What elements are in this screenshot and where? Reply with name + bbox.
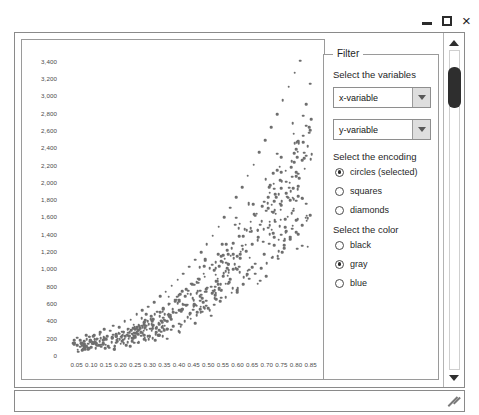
scatter-point xyxy=(209,309,212,312)
scatter-point xyxy=(80,342,83,345)
scatter-point xyxy=(136,326,139,329)
scatter-point xyxy=(179,331,182,334)
scatter-point xyxy=(264,139,267,142)
scatter-point xyxy=(259,280,262,283)
scatter-point xyxy=(143,336,146,339)
radio-unselected-icon xyxy=(335,241,344,250)
scatter-point xyxy=(123,342,126,345)
vertical-scrollbar[interactable] xyxy=(443,33,464,387)
scatter-point xyxy=(111,336,114,339)
x-variable-select[interactable]: x-variable xyxy=(333,87,431,108)
select-variables-label: Select the variables xyxy=(333,69,430,80)
x-tick-label: 0.80 xyxy=(290,361,302,368)
scatter-point xyxy=(199,289,202,292)
scroll-down-button[interactable] xyxy=(444,370,464,385)
scatter-point xyxy=(184,320,187,323)
maximize-button[interactable] xyxy=(440,14,453,27)
chevron-down-icon[interactable] xyxy=(412,120,430,139)
radio-encoding-squares-label: squares xyxy=(350,186,382,196)
scatter-point xyxy=(278,238,281,241)
scatter-point xyxy=(130,329,133,332)
chevron-down-icon[interactable] xyxy=(412,88,430,107)
scatter-point xyxy=(257,229,260,232)
scatter-point xyxy=(291,227,294,230)
x-variable-value: x-variable xyxy=(334,93,378,103)
scatter-point xyxy=(273,244,276,247)
scatter-point xyxy=(267,226,270,229)
scatter-point xyxy=(244,243,247,246)
scatter-point xyxy=(242,283,245,286)
y-tick-label: 1,200 xyxy=(41,248,57,255)
scatter-point xyxy=(218,265,221,268)
scatter-point xyxy=(234,223,237,226)
scatter-point xyxy=(285,192,288,195)
triangle-up-icon xyxy=(449,40,459,46)
scatter-point xyxy=(198,278,201,281)
scatter-point xyxy=(167,295,170,298)
scatter-point xyxy=(94,347,97,350)
scatter-point xyxy=(302,114,305,117)
minimize-button[interactable] xyxy=(420,14,433,27)
scatter-point xyxy=(296,247,299,250)
y-variable-select[interactable]: y-variable xyxy=(333,119,431,140)
scatter-point xyxy=(256,282,259,285)
scatter-point xyxy=(85,334,88,337)
close-button[interactable]: × xyxy=(460,14,473,27)
scatter-point xyxy=(213,269,216,272)
scatter-point xyxy=(189,293,192,296)
scatter-point xyxy=(227,283,230,286)
scatter-point xyxy=(210,285,213,288)
scatter-point xyxy=(133,332,136,335)
scatter-point xyxy=(295,199,298,202)
scatter-point xyxy=(285,169,288,172)
scatter-point xyxy=(287,85,290,88)
radio-color-blue[interactable]: blue xyxy=(333,278,430,288)
scatter-point xyxy=(211,234,214,237)
radio-color-gray[interactable]: gray xyxy=(333,259,430,269)
scatter-point xyxy=(192,308,195,311)
scatter-point xyxy=(103,328,106,331)
scatter-point xyxy=(217,283,220,286)
scatter-point xyxy=(76,343,79,346)
radio-color-black[interactable]: black xyxy=(333,240,430,250)
x-tick-label: 0.05 xyxy=(70,361,82,368)
scatter-point xyxy=(144,339,147,342)
y-tick-label: 800 xyxy=(46,282,57,289)
y-tick-label: 0 xyxy=(53,352,57,359)
x-tick-label: 0.30 xyxy=(144,361,156,368)
scroll-up-button[interactable] xyxy=(444,35,464,50)
scatter-point xyxy=(309,158,312,161)
scatter-point xyxy=(155,331,158,334)
scatter-point xyxy=(238,271,241,274)
scatter-point xyxy=(222,254,225,257)
scatter-point xyxy=(227,271,230,274)
radio-encoding-diamonds[interactable]: diamonds xyxy=(333,205,430,215)
resize-grip[interactable] xyxy=(447,395,461,409)
x-tick-label: 0.65 xyxy=(246,361,258,368)
scatter-point xyxy=(272,172,275,175)
scatter-point xyxy=(254,272,257,275)
x-tick-label: 0.10 xyxy=(85,361,97,368)
scatter-point xyxy=(158,329,161,332)
scatter-point xyxy=(276,113,279,116)
radio-encoding-circles[interactable]: circles (selected) xyxy=(333,167,430,177)
radio-unselected-icon xyxy=(335,187,344,196)
scatter-point xyxy=(112,324,115,327)
scatter-point xyxy=(292,187,295,190)
scatter-point xyxy=(98,333,101,336)
scatter-point xyxy=(124,337,127,340)
scatter-point xyxy=(254,262,257,265)
scatter-point xyxy=(278,165,281,168)
radio-encoding-squares[interactable]: squares xyxy=(333,186,430,196)
scatter-point xyxy=(227,263,230,266)
y-tick-label: 1,600 xyxy=(41,213,57,220)
scatter-point xyxy=(284,218,287,221)
scatter-point xyxy=(306,245,309,248)
select-color-label: Select the color xyxy=(333,224,430,235)
scatter-point xyxy=(252,163,255,166)
scatter-point xyxy=(277,258,280,261)
scatter-point xyxy=(159,295,162,298)
scrollbar-thumb[interactable] xyxy=(448,67,461,108)
scatter-points-surface xyxy=(62,52,318,355)
scatter-point xyxy=(151,328,154,331)
